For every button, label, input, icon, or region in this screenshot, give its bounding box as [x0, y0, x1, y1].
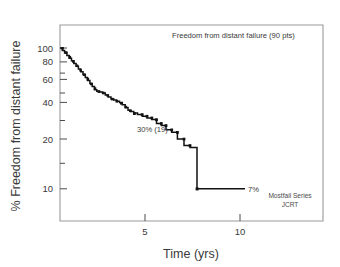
censor-mark: [69, 56, 72, 59]
censor-mark: [183, 138, 186, 141]
censor-mark-final: [196, 187, 199, 190]
x-tick-label-10: 10: [235, 226, 246, 237]
censor-mark: [72, 60, 75, 63]
censor-mark: [150, 117, 153, 120]
censor-mark: [107, 94, 110, 97]
censor-mark: [133, 112, 136, 115]
censor-mark: [141, 113, 144, 116]
censor-mark: [102, 92, 105, 95]
y-tick-label-10: 10: [42, 183, 53, 194]
censor-mark: [116, 100, 119, 103]
series-source-line-1: Mostfail Series: [268, 192, 312, 199]
x-tick-label-5: 5: [142, 226, 147, 237]
censor-mark: [129, 110, 132, 113]
censor-mark: [98, 90, 101, 93]
censor-mark: [65, 51, 68, 54]
chart-title-annotation: Freedom from distant failure (90 pts): [172, 31, 295, 40]
censor-mark: [146, 115, 149, 118]
censor-mark: [125, 106, 128, 109]
y-tick-label-40: 40: [42, 97, 53, 108]
censor-mark: [87, 78, 90, 81]
chart-figure: 100 80 60 40 20 10 5 10 Freedom from dis…: [0, 0, 340, 267]
censor-mark: [155, 118, 158, 121]
censor-mark: [120, 102, 123, 105]
censor-mark: [176, 131, 179, 134]
y-axis-title: % Freedom from distant failure: [9, 41, 23, 212]
censor-mark: [90, 83, 93, 86]
survival-curve-chart: 100 80 60 40 20 10 5 10 Freedom from dis…: [0, 0, 340, 267]
censor-mark: [76, 65, 79, 68]
y-tick-label-20: 20: [42, 134, 53, 145]
censor-mark: [61, 47, 64, 50]
x-axis-title: Time (yrs): [163, 247, 219, 261]
censor-mark: [170, 129, 173, 132]
series-source-line-2: JCRT: [282, 201, 299, 208]
censor-mark: [111, 98, 114, 101]
censor-mark: [79, 69, 82, 72]
endpoint-annotation: 7%: [248, 185, 259, 194]
y-tick-label-60: 60: [42, 74, 53, 85]
censor-mark: [189, 144, 192, 147]
censor-mark: [83, 73, 86, 76]
midpoint-annotation: 30% (19): [137, 125, 168, 134]
censor-mark: [94, 87, 97, 90]
y-tick-label-80: 80: [42, 56, 53, 67]
y-tick-label-100: 100: [37, 43, 53, 54]
